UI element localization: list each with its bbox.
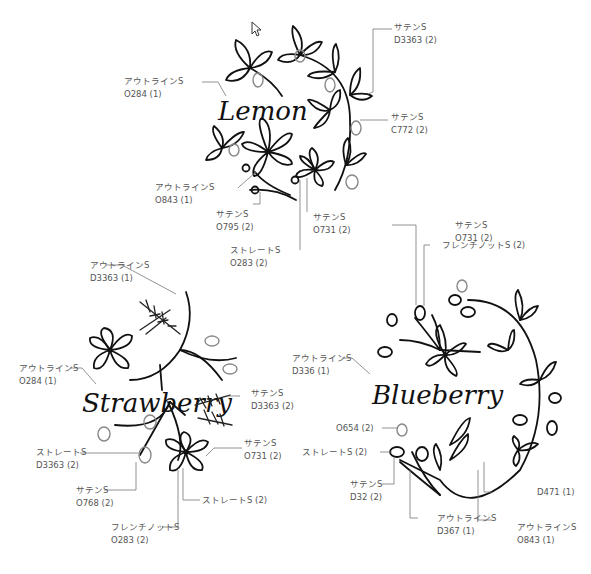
callout-thread: D3363 (2) [36,459,86,472]
callout-lemon-outline-o843: アウトラインS O843 (1) [155,181,214,207]
callout-stitch: アウトラインS [155,181,214,194]
callout-thread: O843 (1) [517,534,576,547]
blueberry-motif: Blueberry [342,225,561,520]
callout-lemon-satin-o731: サテンS O731 (2) [313,211,351,237]
strawberry-title: Strawberry [82,388,232,418]
callout-thread: C772 (2) [391,124,428,137]
callout-blueberry-satin-d32: サテンS D32 (2) [350,478,382,504]
callout-stitch: アウトラインS [292,352,351,365]
blueberry-title: Blueberry [371,380,503,410]
callout-strawberry-satin-o731: サテンS O731 (2) [244,437,282,463]
callout-stitch: ストレートS [36,446,86,459]
callout-thread: D367 (1) [437,525,496,538]
callout-thread: O768 (2) [76,497,114,510]
callout-blueberry-outline-d336: アウトラインS D336 (1) [292,352,351,378]
callout-strawberry-outline-d3363: アウトラインS D3363 (1) [90,259,149,285]
callout-thread: O795 (2) [216,221,254,234]
callout-stitch: サテンS [394,21,437,34]
callout-stitch: アウトラインS [90,259,149,272]
callout-stitch: フレンチノットS [111,521,179,534]
callout-stitch: サテンS [216,208,254,221]
callout-stitch: サテンS [76,484,114,497]
callout-stitch: ストレートS [230,244,280,257]
callout-thread: D3363 (2) [394,34,437,47]
callout-stitch: サテンS [350,478,382,491]
callout-strawberry-outline-o284: アウトラインS O284 (1) [19,362,78,388]
callout-strawberry-satin-o768: サテンS O768 (2) [76,484,114,510]
callout-lemon-straight-o283: ストレートS O283 (2) [230,244,280,270]
callout-blueberry-d471: D471 (1) [537,486,575,499]
callout-thread: O283 (2) [111,534,179,547]
callout-lemon-satin-d3363: サテンS D3363 (2) [394,21,437,47]
callout-thread: O731 (2) [313,224,351,237]
callout-stitch: サテンS [313,211,351,224]
callout-stitch: アウトラインS [19,362,78,375]
callout-thread: D3363 (2) [251,400,294,413]
callout-thread: D336 (1) [292,365,351,378]
callout-thread: D3363 (1) [90,272,149,285]
callout-strawberry-frenchknot-o283: フレンチノットS O283 (2) [111,521,179,547]
callout-blueberry-outline-d367: アウトラインS D367 (1) [437,512,496,538]
callout-stitch: D471 (1) [537,486,575,499]
callout-stitch: O654 (2) [336,422,374,435]
callout-thread: O731 (2) [244,450,282,463]
callout-strawberry-straight: ストレートS (2) [202,494,267,507]
callout-blueberry-o654: O654 (2) [336,422,374,435]
callout-blueberry-straight: ストレートS (2) [302,446,367,459]
callout-stitch: フレンチノットS (2) [442,239,525,252]
callout-thread: D32 (2) [350,491,382,504]
callout-stitch: ストレートS (2) [302,446,367,459]
callout-lemon-satin-o795: サテンS O795 (2) [216,208,254,234]
callout-stitch: アウトラインS [517,521,576,534]
callout-stitch: サテンS [391,111,428,124]
callout-stitch: サテンS [244,437,282,450]
callout-thread: O283 (2) [230,257,280,270]
callout-strawberry-satin-d3363: サテンS D3363 (2) [251,387,294,413]
callout-stitch: アウトラインS [124,75,183,88]
mouse-cursor-icon [252,22,261,36]
callout-blueberry-frenchknot: フレンチノットS (2) [442,239,525,252]
callout-strawberry-straight-d3363: ストレートS D3363 (2) [36,446,86,472]
callout-lemon-satin-c772: サテンS C772 (2) [391,111,428,137]
callout-stitch: サテンS [455,219,493,232]
callout-stitch: サテンS [251,387,294,400]
callout-blueberry-outline-o843: アウトラインS O843 (1) [517,521,576,547]
callout-thread: O284 (1) [19,375,78,388]
callout-thread: O284 (1) [124,88,183,101]
callout-thread: O843 (1) [155,194,214,207]
callout-lemon-outline-o284: アウトラインS O284 (1) [124,75,183,101]
callout-stitch: アウトラインS [437,512,496,525]
callout-stitch: ストレートS (2) [202,494,267,507]
lemon-title: Lemon [217,96,308,126]
